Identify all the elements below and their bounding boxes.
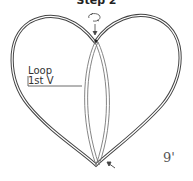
loop-label-line2: 1st V	[28, 76, 54, 86]
heart-outline	[12, 16, 180, 165]
inner-loop	[85, 42, 110, 165]
loop-label: Loop 1st V	[28, 66, 54, 86]
pointer-arrow-icon	[107, 162, 115, 168]
rotate-arrow-icon	[89, 13, 100, 35]
page-number: 9'	[163, 150, 175, 165]
